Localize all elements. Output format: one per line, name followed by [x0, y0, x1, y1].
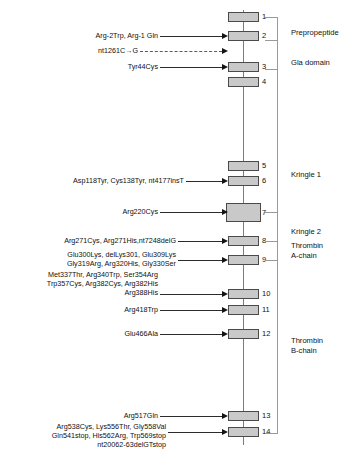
domain-bracket-tick — [265, 212, 278, 213]
exon-number-label: 5 — [262, 162, 266, 170]
mutation-arrow-icon — [222, 291, 228, 297]
domain-bracket-tick — [265, 17, 278, 18]
mutation-label: Arg517Gln — [0, 411, 158, 420]
mutation-label: Arg271Cys, Arg271His,nt7248delG — [0, 236, 176, 245]
domain-label: Kringle 1 — [291, 170, 321, 180]
mutation-leader-line — [186, 181, 222, 182]
exon-number-label: 6 — [262, 177, 266, 185]
mutation-arrow-icon — [222, 331, 228, 337]
domain-bracket-tick — [265, 69, 278, 70]
mutation-arrow-icon — [222, 413, 228, 419]
domain-bracket-tick — [265, 40, 278, 41]
mutation-leader-line — [160, 310, 222, 311]
mutation-leader-line — [160, 294, 222, 295]
mutation-arrow-icon — [222, 238, 228, 244]
domain-bracket-tick — [265, 433, 278, 434]
mutation-arrow-icon — [222, 33, 228, 39]
mutation-leader-line — [160, 416, 222, 417]
mutation-label: Asp118Tyr, Cys138Tyr, nt4177insT — [0, 176, 184, 185]
mutation-arrow-icon — [222, 64, 228, 70]
exon-number-label: 10 — [262, 290, 270, 298]
exon-box — [228, 176, 259, 186]
exon-box — [228, 161, 259, 171]
domain-bracket-tick — [265, 260, 278, 261]
mutation-arrow-icon — [222, 429, 228, 435]
domain-label: Gla domain — [291, 58, 330, 68]
mutation-leader-line — [140, 51, 222, 52]
mutation-arrow-icon — [222, 178, 228, 184]
exon-box — [228, 77, 259, 87]
exon-number-label: 13 — [262, 412, 270, 420]
exon-number-label: 14 — [262, 428, 270, 436]
exon-box — [228, 411, 259, 421]
mutation-label: Arg-2Trp, Arg-1 Gln — [0, 31, 158, 40]
mutation-label: Arg538Cys, Lys556Thr, Gly558Val Gln541st… — [0, 422, 166, 450]
domain-label: Prepropeptide — [291, 28, 339, 38]
exon-box — [226, 203, 261, 222]
mutation-label: nt1261C→G — [0, 46, 138, 55]
exon-box — [228, 427, 259, 437]
gene-exon-mutation-diagram: 1234567891011121314Arg-2Trp, Arg-1 Glnnt… — [0, 0, 349, 453]
exon-number-label: 2 — [262, 32, 266, 40]
mutation-label: Tyr44Cys — [0, 62, 158, 71]
mutation-leader-line — [178, 241, 222, 242]
mutation-leader-line — [178, 260, 222, 261]
mutation-label: Arg220Cys — [0, 207, 158, 216]
domain-bracket-tick — [265, 241, 278, 242]
domain-label: Thrombin A-chain — [291, 241, 323, 260]
exon-number-label: 4 — [262, 78, 266, 86]
gene-backbone-line — [243, 10, 244, 445]
exon-box — [228, 62, 259, 72]
mutation-arrow-icon — [222, 48, 228, 54]
exon-box — [228, 255, 259, 265]
mutation-leader-line — [160, 36, 222, 37]
mutation-label: Glu466Ala — [0, 329, 158, 338]
mutation-leader-line — [160, 212, 222, 213]
mutation-leader-line — [160, 67, 222, 68]
mutation-arrow-icon — [222, 209, 228, 215]
mutation-leader-line — [168, 432, 222, 433]
mutation-arrow-icon — [222, 307, 228, 313]
exon-box — [228, 305, 259, 315]
exon-box — [228, 31, 259, 41]
exon-box — [228, 329, 259, 339]
domain-bracket-spine — [277, 17, 278, 433]
mutation-label: Glu300Lys, delLys301, Glu309Lys Gly319Ar… — [0, 250, 176, 268]
mutation-arrow-icon — [222, 257, 228, 263]
exon-box — [228, 289, 259, 299]
domain-label: Kringle 2 — [291, 227, 321, 237]
exon-box — [228, 236, 259, 246]
exon-number-label: 12 — [262, 330, 270, 338]
exon-number-label: 11 — [262, 306, 270, 314]
mutation-label: Met337Thr, Arg340Trp, Ser354Arg Trp357Cy… — [0, 270, 158, 298]
domain-label: Thrombin B-chain — [291, 336, 323, 355]
mutation-label: Arg418Trp — [0, 305, 158, 314]
exon-box — [228, 12, 259, 22]
mutation-leader-line — [160, 334, 222, 335]
